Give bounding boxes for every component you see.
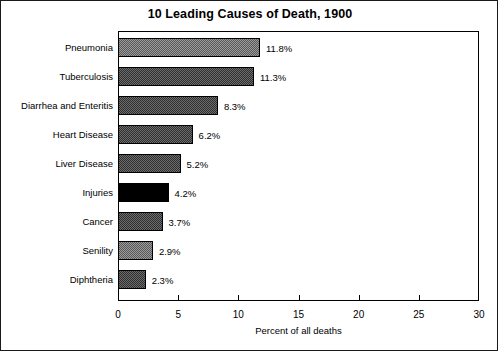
bar-value-label: 2.3% (152, 274, 174, 285)
bar-value-label: 4.2% (175, 187, 197, 198)
bar-value-label: 3.7% (169, 216, 191, 227)
bar-value-label: 5.2% (187, 158, 209, 169)
x-tick-label: 25 (404, 309, 434, 320)
bar-value-label: 11.8% (266, 42, 292, 53)
bar (118, 241, 153, 260)
category-label: Diphtheria (1, 274, 113, 285)
bar-row: 8.3% (118, 96, 479, 115)
bar-row: 2.3% (118, 270, 479, 289)
x-tick-mark (419, 295, 420, 301)
bar-row: 11.8% (118, 38, 479, 57)
bar (118, 183, 169, 202)
bar (118, 154, 181, 173)
bar-value-label: 6.2% (199, 129, 221, 140)
bar-value-label: 2.9% (159, 245, 181, 256)
x-tick-mark (238, 295, 239, 301)
x-tick-label: 0 (103, 309, 133, 320)
x-tick-mark (178, 295, 179, 301)
category-label: Heart Disease (1, 129, 113, 140)
x-tick-label: 10 (223, 309, 253, 320)
bar-row: 11.3% (118, 67, 479, 86)
bar-row: 2.9% (118, 241, 479, 260)
bar-row: 6.2% (118, 125, 479, 144)
x-tick-label: 30 (464, 309, 494, 320)
x-tick-mark (299, 295, 300, 301)
category-axis-labels: PneumoniaTuberculosisDiarrhea and Enteri… (1, 31, 113, 301)
category-label: Tuberculosis (1, 71, 113, 82)
x-tick-label: 20 (344, 309, 374, 320)
x-tick-label: 15 (284, 309, 314, 320)
x-tick-label: 5 (163, 309, 193, 320)
bar (118, 270, 146, 289)
category-label: Liver Disease (1, 158, 113, 169)
category-label: Diarrhea and Enteritis (1, 100, 113, 111)
chart-title: 10 Leading Causes of Death, 1900 (1, 7, 498, 21)
bars-layer: 11.8%11.3%8.3%6.2%5.2%4.2%3.7%2.9%2.3% (118, 31, 479, 301)
bar (118, 212, 163, 231)
category-label: Cancer (1, 216, 113, 227)
bar (118, 67, 254, 86)
x-tick-mark (359, 295, 360, 301)
bar (118, 125, 193, 144)
bar-value-label: 8.3% (224, 100, 246, 111)
chart-page: 10 Leading Causes of Death, 1900 Pneumon… (0, 0, 498, 351)
bar-value-label: 11.3% (260, 71, 286, 82)
category-label: Senility (1, 245, 113, 256)
bar-row: 4.2% (118, 183, 479, 202)
bar (118, 96, 218, 115)
bar-row: 5.2% (118, 154, 479, 173)
category-label: Pneumonia (1, 42, 113, 53)
bar-row: 3.7% (118, 212, 479, 231)
x-axis-title: Percent of all deaths (118, 325, 479, 336)
bar (118, 38, 260, 57)
category-label: Injuries (1, 187, 113, 198)
